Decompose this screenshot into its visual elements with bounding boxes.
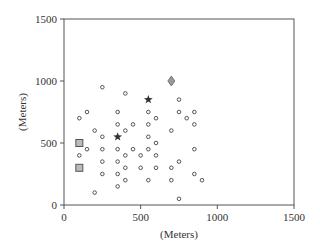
y-axis-label: (Meters) xyxy=(16,93,29,131)
circle-marker-icon xyxy=(101,172,105,176)
circle-marker-icon xyxy=(131,123,135,127)
y-tick-label: 500 xyxy=(41,137,58,149)
circle-marker-icon xyxy=(193,123,197,127)
circle-marker-icon xyxy=(116,160,120,164)
circle-marker-icon xyxy=(200,178,204,182)
circle-marker-icon xyxy=(124,129,128,133)
x-tick-label: 500 xyxy=(132,211,149,223)
circle-marker-icon xyxy=(170,129,174,133)
circle-marker-icon xyxy=(177,98,181,102)
circle-marker-icon xyxy=(78,116,82,120)
circle-marker-icon xyxy=(124,166,128,170)
x-axis-ticks: 050010001500 xyxy=(61,205,305,223)
circle-marker-icon xyxy=(185,116,189,120)
circle-marker-icon xyxy=(139,166,143,170)
circle-marker-icon xyxy=(93,129,97,133)
circle-marker-icon xyxy=(124,154,128,158)
circle-marker-icon xyxy=(177,110,181,114)
circle-marker-icon xyxy=(101,160,105,164)
circle-marker-icon xyxy=(154,141,158,145)
y-tick-label: 0 xyxy=(52,199,58,211)
circle-marker-icon xyxy=(124,92,128,96)
y-tick-label: 1000 xyxy=(35,75,58,87)
x-tick-label: 0 xyxy=(61,211,67,223)
circle-marker-icon xyxy=(147,178,151,182)
circle-marker-icon xyxy=(101,147,105,151)
circle-marker-icon xyxy=(177,160,181,164)
circle-marker-icon xyxy=(101,85,105,89)
circle-marker-icon xyxy=(116,110,120,114)
x-axis-label: (Meters) xyxy=(160,228,198,241)
circle-marker-icon xyxy=(116,185,120,189)
circle-marker-icon xyxy=(101,135,105,139)
circle-marker-icon xyxy=(116,172,120,176)
circle-marker-icon xyxy=(139,154,143,158)
circle-marker-icon xyxy=(193,110,197,114)
x-tick-label: 1000 xyxy=(206,211,229,223)
circle-marker-icon xyxy=(124,178,128,182)
circle-marker-icon xyxy=(170,166,174,170)
circle-marker-icon xyxy=(154,166,158,170)
circle-marker-icon xyxy=(147,123,151,127)
circle-marker-icon xyxy=(78,154,82,158)
x-tick-label: 1500 xyxy=(283,211,306,223)
circle-marker-icon xyxy=(170,178,174,182)
circle-marker-icon xyxy=(93,191,97,195)
circle-marker-icon xyxy=(147,135,151,139)
circle-marker-icon xyxy=(116,147,120,151)
circle-marker-icon xyxy=(85,147,89,151)
square-marker-icon xyxy=(76,164,83,171)
circle-marker-icon xyxy=(193,172,197,176)
circle-marker-icon xyxy=(154,116,158,120)
circle-marker-icon xyxy=(177,197,181,201)
circle-marker-icon xyxy=(131,147,135,151)
circle-marker-icon xyxy=(85,110,89,114)
scatter-chart: 050010001500 050010001500 (Meters) (Mete… xyxy=(0,0,320,250)
circle-marker-icon xyxy=(154,154,158,158)
y-axis-ticks: 050010001500 xyxy=(35,13,64,211)
y-tick-label: 1500 xyxy=(35,13,58,25)
circle-marker-icon xyxy=(193,147,197,151)
circle-marker-icon xyxy=(116,123,120,127)
square-marker-icon xyxy=(76,140,83,147)
circle-marker-icon xyxy=(147,110,151,114)
circle-marker-icon xyxy=(147,147,151,151)
